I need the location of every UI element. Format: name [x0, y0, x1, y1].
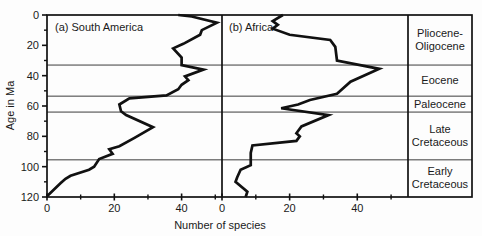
y-axis-label: Age in Ma	[4, 76, 17, 136]
series-line-africa	[236, 15, 380, 197]
y-tick-label: 120	[21, 191, 39, 203]
x-tick-label: 20	[108, 202, 120, 214]
species-age-profile-figure: 0204002040020406080100120 (a) South Amer…	[0, 0, 482, 236]
x-tick-label: 0	[219, 202, 225, 214]
y-tick-label: 0	[33, 9, 39, 21]
y-tick-label: 60	[27, 100, 39, 112]
y-tick-label: 40	[27, 70, 39, 82]
x-tick-label: 40	[351, 202, 363, 214]
x-tick-label: 40	[175, 202, 187, 214]
x-axis-label: Number of species	[146, 219, 294, 231]
y-tick-label: 80	[27, 130, 39, 142]
panel-b-title: (b) Africa	[229, 21, 273, 33]
y-tick-label: 100	[21, 161, 39, 173]
chart-canvas: 0204002040020406080100120	[0, 0, 482, 236]
panel-a-title: (a) South America	[55, 21, 143, 33]
x-tick-label: 0	[44, 202, 50, 214]
y-tick-label: 20	[27, 39, 39, 51]
x-tick-label: 20	[284, 202, 296, 214]
series-line-south-america	[47, 15, 217, 196]
